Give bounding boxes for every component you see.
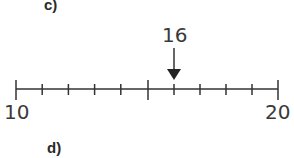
down-arrow-icon [167,69,181,80]
number-line [0,0,294,158]
start-label: 10 [4,102,29,122]
part-d-label: d) [47,139,61,156]
end-label: 20 [265,102,290,122]
